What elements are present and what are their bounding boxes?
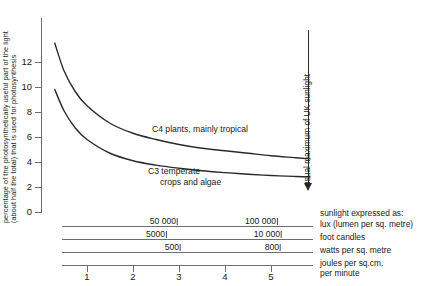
- y-tick-label-6: 6: [14, 131, 32, 142]
- x-tick-label-1: 1: [80, 271, 94, 282]
- scale-row-lux: [62, 226, 313, 227]
- y-tick-label-4: 4: [14, 156, 32, 167]
- scale-row-watts: [62, 252, 313, 253]
- scales-header: sunlight expressed as:: [320, 208, 403, 218]
- y-tick-label-2: 2: [14, 181, 32, 192]
- y-tick-label-8: 8: [14, 106, 32, 117]
- y-tick-0: [35, 212, 41, 213]
- curve-label-c3-line-1: C3 temperate: [148, 166, 200, 176]
- scale-row-foot-candles: [62, 239, 313, 240]
- scale-value-foot-1: 5000: [146, 229, 167, 239]
- y-tick-10: [35, 87, 41, 88]
- x-tick-label-5: 5: [264, 271, 278, 282]
- y-tick-label-10: 10: [10, 81, 32, 92]
- y-axis-line: [41, 18, 42, 213]
- photosynthesis-light-response-chart: percentage of the photosynthetically use…: [0, 0, 426, 286]
- y-tick-label-12: 12: [10, 56, 32, 67]
- scale-value-watts-2: 800: [265, 242, 281, 252]
- unit-foot-candles: foot candles: [320, 232, 365, 242]
- curve-label-c3-line-2: crops and algae: [148, 177, 221, 188]
- unit-joules-line-2: per minute: [320, 268, 360, 278]
- scale-value-foot-2: 10 000: [254, 229, 282, 239]
- scale-value-lux-1: 50 000: [150, 216, 178, 226]
- x-tick-label-4: 4: [218, 271, 232, 282]
- y-tick-12: [35, 62, 41, 63]
- uk-sunlight-annotation: usual maximum of UK sunlight: [303, 28, 313, 186]
- y-tick-2: [35, 187, 41, 188]
- y-tick-8: [35, 112, 41, 113]
- curves-layer: [0, 0, 426, 286]
- curve-label-c3: C3 temperate crops and algae: [148, 166, 221, 187]
- unit-joules: joules per sq.cm. per minute: [320, 258, 383, 278]
- curve-c4-plants: [55, 43, 310, 159]
- y-tick-6: [35, 137, 41, 138]
- scale-value-watts-1: 500: [165, 242, 181, 252]
- unit-lux: lux (lumen per sq. metre): [320, 219, 413, 229]
- y-tick-label-0: 0: [14, 206, 32, 217]
- y-tick-4: [35, 162, 41, 163]
- curve-label-c4: C4 plants, mainly tropical: [152, 124, 248, 135]
- x-tick-label-2: 2: [126, 271, 140, 282]
- x-tick-label-3: 3: [172, 271, 186, 282]
- scale-value-lux-2: 100 000: [245, 216, 278, 226]
- unit-watts: watts per sq. metre: [320, 245, 391, 255]
- scale-row-joules: [62, 265, 313, 266]
- unit-joules-line-1: joules per sq.cm.: [320, 258, 383, 268]
